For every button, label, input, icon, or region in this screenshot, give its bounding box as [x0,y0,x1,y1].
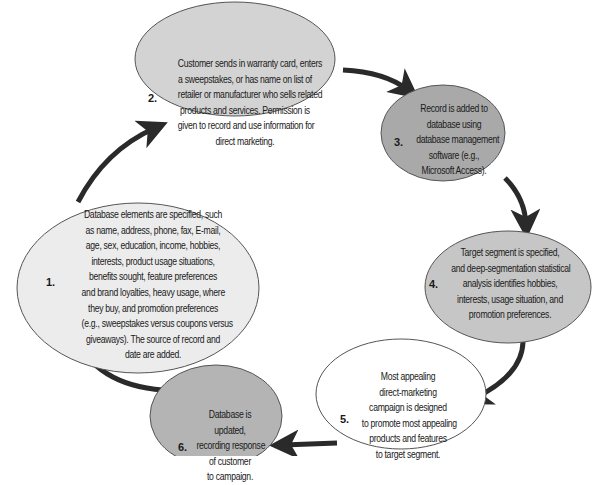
step-6-text: Database is updated, recording response … [196,407,263,485]
step-4-text: Target segment is specified, and deep-se… [451,245,569,323]
step-1-text: Database elements are specified, such as… [82,207,225,363]
arrow-5-to-6 [283,443,337,445]
step-5-text: Most appealing direct-marketing campaign… [362,369,454,463]
step-4-number: 4. [429,278,438,290]
step-2-number: 2. [148,92,157,104]
step-6-number: 6. [178,441,187,453]
step-2-text: Customer sends in warranty card, enters … [178,56,312,150]
arrow-1-to-2 [78,128,155,202]
step-3-number: 3. [394,136,403,148]
step-5-number: 5. [340,413,349,425]
step-1-number: 1. [46,276,55,288]
arrow-2-to-3 [343,70,408,90]
arrow-3-to-4 [505,178,526,225]
step-3-text: Record is added to database using databa… [416,101,492,179]
